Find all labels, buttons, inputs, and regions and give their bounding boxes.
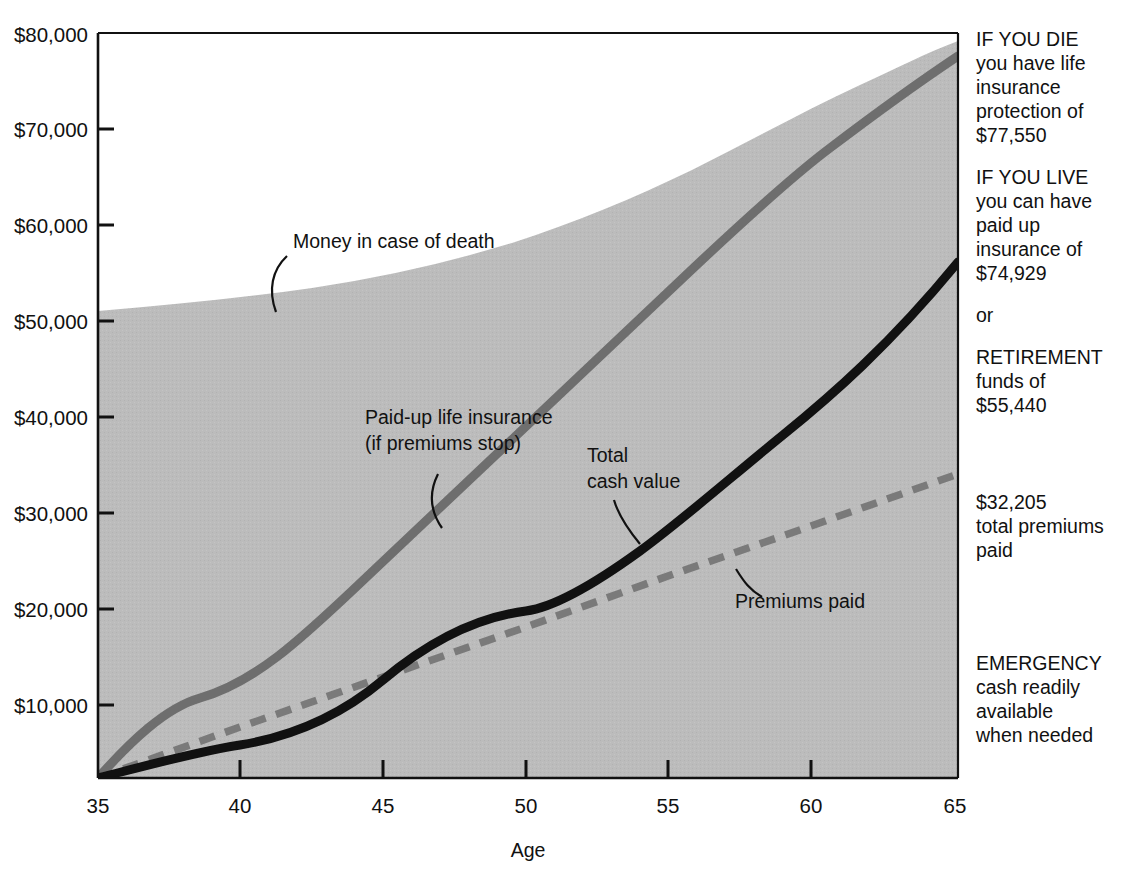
annotation-money-in-case-of-death: Money in case of death: [293, 230, 495, 252]
chart-canvas: $80,000 $70,000 $60,000 $50,000 $40,000 …: [0, 0, 1132, 870]
side-if-you-live-line-4: $74,929: [976, 262, 1047, 284]
y-tick-label-20000: $20,000: [14, 598, 88, 621]
side-emergency-line-3: when needed: [975, 724, 1093, 746]
insurance-value-chart: $80,000 $70,000 $60,000 $50,000 $40,000 …: [0, 0, 1132, 870]
x-axis-title: Age: [511, 839, 546, 861]
side-total-premiums-line-1: total premiums: [976, 515, 1104, 537]
side-if-you-die-line-2: insurance: [976, 76, 1061, 98]
side-if-you-live-line-3: insurance of: [976, 238, 1083, 260]
annotation-paid-up-line1: Paid-up life insurance: [365, 406, 553, 428]
x-tick-label-40: 40: [229, 794, 252, 817]
side-emergency-line-1: cash readily: [976, 676, 1080, 698]
side-total-premiums-line-2: paid: [976, 539, 1013, 561]
side-emergency-line-2: available: [976, 700, 1053, 722]
side-total-premiums-line-0: $32,205: [976, 491, 1047, 513]
side-if-you-live-line-2: paid up: [976, 214, 1040, 236]
side-emergency-line-0: EMERGENCY: [976, 652, 1102, 674]
side-retirement-line-1: funds of: [976, 370, 1046, 392]
side-if-you-die-line-1: you have life: [976, 52, 1086, 74]
annotation-total-cash-value-line1: Total: [587, 444, 628, 466]
y-tick-label-40000: $40,000: [14, 406, 88, 429]
x-tick-label-65: 65: [944, 794, 967, 817]
side-if-you-die-line-3: protection of: [976, 100, 1084, 122]
annotation-premiums-paid: Premiums paid: [735, 590, 865, 612]
y-tick-label-10000: $10,000: [14, 694, 88, 717]
side-or-connector: or: [976, 304, 994, 326]
y-tick-label-30000: $30,000: [14, 502, 88, 525]
x-tick-label-55: 55: [657, 794, 680, 817]
side-if-you-die-line-0: IF YOU DIE: [976, 28, 1079, 50]
y-tick-label-50000: $50,000: [14, 310, 88, 333]
side-retirement-line-0: RETIREMENT: [976, 346, 1103, 368]
annotation-total-cash-value-line2: cash value: [587, 470, 680, 492]
y-tick-label-80000: $80,000: [14, 23, 88, 46]
side-if-you-live-line-1: you can have: [976, 190, 1092, 212]
x-tick-label-35: 35: [87, 794, 110, 817]
y-tick-label-60000: $60,000: [14, 214, 88, 237]
side-retirement-line-2: $55,440: [976, 394, 1047, 416]
x-tick-label-45: 45: [372, 794, 395, 817]
annotation-paid-up-line2: (if premiums stop): [365, 432, 521, 454]
x-tick-label-50: 50: [515, 794, 538, 817]
side-if-you-live-line-0: IF YOU LIVE: [976, 166, 1088, 188]
y-tick-label-70000: $70,000: [14, 118, 88, 141]
side-if-you-die-line-4: $77,550: [976, 124, 1047, 146]
x-tick-label-60: 60: [800, 794, 823, 817]
